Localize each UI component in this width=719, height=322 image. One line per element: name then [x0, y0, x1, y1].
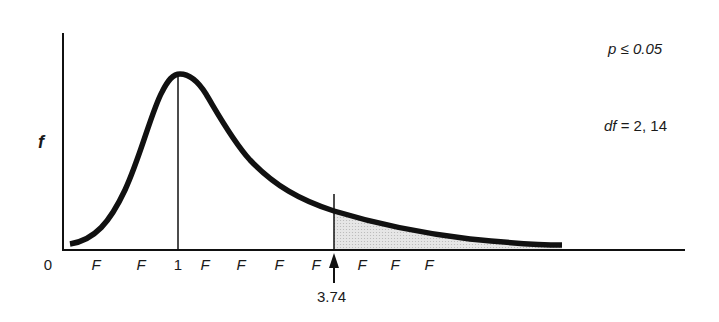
p-value-annotation: p ≤ 0.05: [608, 40, 662, 57]
tick-F: F: [136, 256, 145, 273]
df-annotation: df = 2, 14: [604, 117, 667, 134]
p-value-text: p ≤ 0.05: [608, 40, 662, 57]
tick-F: F: [424, 256, 433, 273]
critical-value-label: 3.74: [317, 288, 346, 305]
y-axis-label: f: [38, 132, 44, 153]
tick-F: F: [357, 256, 366, 273]
tick-1: 1: [174, 256, 182, 273]
tick-0: 0: [44, 256, 52, 273]
tick-F: F: [236, 256, 245, 273]
tick-F: F: [390, 256, 399, 273]
tick-F: F: [91, 256, 100, 273]
df-value: = 2, 14: [617, 117, 667, 134]
tick-F: F: [200, 256, 209, 273]
tick-F: F: [311, 256, 320, 273]
critical-arrow-head: [329, 253, 339, 268]
tick-F: F: [274, 256, 283, 273]
density-curve: [70, 74, 562, 245]
df-prefix: df: [604, 117, 617, 134]
